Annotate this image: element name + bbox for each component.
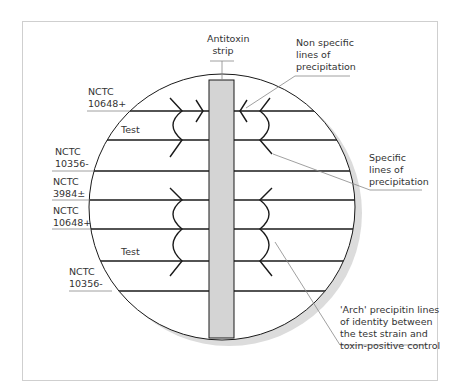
- label-nctc-10648-bottom: NCTC 10648+: [53, 205, 91, 229]
- annotation-arch: 'Arch' precipitin lines of identity betw…: [340, 304, 440, 352]
- strip-label-line2: strip: [207, 45, 239, 57]
- annotation-line: Non specific: [296, 37, 356, 49]
- label-line: Test: [121, 246, 140, 258]
- antitoxin-strip: [209, 80, 234, 338]
- annotation-line: toxin-positive control: [340, 340, 440, 352]
- label-line: NCTC: [88, 86, 126, 98]
- annotation-line: lines of: [369, 164, 429, 176]
- label-nctc-10356-bottom: NCTC 10356-: [69, 266, 103, 290]
- strip-label-line1: Antitoxin: [207, 33, 239, 45]
- label-test-bottom: Test: [121, 246, 140, 258]
- label-line: NCTC: [53, 205, 91, 217]
- label-line: 10356-: [69, 278, 103, 290]
- label-line: NCTC: [53, 176, 85, 188]
- annotation-line: the test strain and: [340, 328, 440, 340]
- antitoxin-strip-label: Antitoxin strip: [207, 33, 239, 57]
- annotation-line: lines of: [296, 49, 356, 61]
- label-line: 10648+: [88, 98, 126, 110]
- label-line: NCTC: [69, 266, 103, 278]
- annotation-line: precipitation: [296, 61, 356, 73]
- annotation-line: of identity between: [340, 316, 440, 328]
- annotation-line: precipitation: [369, 176, 429, 188]
- label-line: 10356-: [55, 158, 89, 170]
- label-nctc-10356-top: NCTC 10356-: [55, 146, 89, 170]
- label-line: Test: [121, 124, 140, 136]
- label-line: NCTC: [55, 146, 89, 158]
- annotation-non-specific: Non specific lines of precipitation: [296, 37, 356, 73]
- label-test-top: Test: [121, 124, 140, 136]
- label-nctc-10648-top: NCTC 10648+: [88, 86, 126, 110]
- label-line: 10648+: [53, 217, 91, 229]
- annotation-line: 'Arch' precipitin lines: [340, 304, 440, 316]
- label-line: 3984±: [53, 188, 85, 200]
- label-nctc-3984: NCTC 3984±: [53, 176, 85, 200]
- annotation-specific: Specific lines of precipitation: [369, 152, 429, 188]
- annotation-line: Specific: [369, 152, 429, 164]
